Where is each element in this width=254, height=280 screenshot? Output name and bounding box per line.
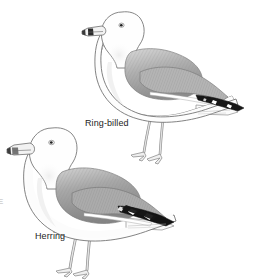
bird-ring-billed: [82, 12, 244, 164]
species-label-ring-billed: Ring-billed: [85, 118, 129, 128]
bird-herring: [7, 128, 176, 279]
species-label-herring: Herring: [35, 231, 65, 241]
ring-billed-legs: [131, 118, 163, 164]
cropped-edge-caption: E: [0, 197, 4, 206]
illustration-plate: Ring-billed Herring E: [0, 0, 254, 280]
